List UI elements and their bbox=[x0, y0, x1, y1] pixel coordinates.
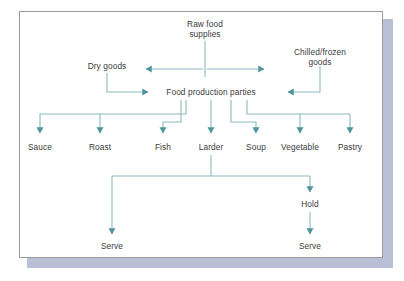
node-fish: Fish bbox=[141, 143, 185, 153]
node-dry-goods: Dry goods bbox=[77, 62, 137, 72]
node-larder: Larder bbox=[187, 143, 235, 153]
node-chilled-frozen-goods-line2: goods bbox=[281, 58, 359, 68]
node-hold-line1: Hold bbox=[288, 200, 332, 210]
edge-parties-to-soup bbox=[231, 100, 256, 133]
node-food-production-parties-line1: Food production parties bbox=[156, 88, 266, 98]
diagram-page: Raw food supplies Dry goods Chilled/froz… bbox=[0, 0, 404, 281]
node-chilled-frozen-goods: Chilled/frozen goods bbox=[281, 48, 359, 68]
node-vegetable: Vegetable bbox=[273, 143, 327, 153]
edge-parties-left-bus bbox=[40, 100, 186, 133]
flowchart-connectors bbox=[0, 0, 404, 281]
node-sauce-line1: Sauce bbox=[15, 143, 65, 153]
node-serve-left: Serve bbox=[88, 242, 136, 252]
node-roast-line1: Roast bbox=[75, 143, 125, 153]
node-serve-right: Serve bbox=[286, 242, 334, 252]
node-larder-line1: Larder bbox=[187, 143, 235, 153]
edge-dry-to-parties bbox=[107, 73, 148, 92]
node-raw-food-supplies-line2: supplies bbox=[175, 30, 235, 40]
node-food-production-parties: Food production parties bbox=[156, 88, 266, 98]
node-roast: Roast bbox=[75, 143, 125, 153]
node-raw-food-supplies: Raw food supplies bbox=[175, 20, 235, 40]
node-pastry: Pastry bbox=[327, 143, 373, 153]
node-serve-left-line1: Serve bbox=[88, 242, 136, 252]
node-sauce: Sauce bbox=[15, 143, 65, 153]
edge-parties-right-bus bbox=[247, 100, 350, 133]
edge-chilled-to-parties bbox=[288, 66, 320, 92]
edge-parties-to-fish bbox=[163, 100, 181, 133]
node-hold: Hold bbox=[288, 200, 332, 210]
node-serve-right-line1: Serve bbox=[286, 242, 334, 252]
node-vegetable-line1: Vegetable bbox=[273, 143, 327, 153]
node-pastry-line1: Pastry bbox=[327, 143, 373, 153]
node-fish-line1: Fish bbox=[141, 143, 185, 153]
node-dry-goods-line1: Dry goods bbox=[77, 62, 137, 72]
